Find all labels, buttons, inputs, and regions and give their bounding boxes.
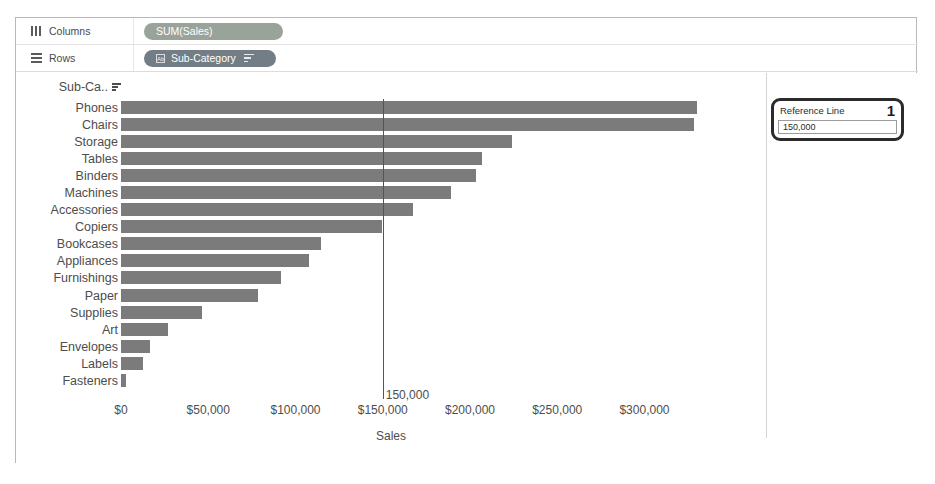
tableau-worksheet-window: Columns SUM(Sales) Rows Ab Sub-Category [15, 17, 917, 463]
bar-mark[interactable] [121, 340, 150, 353]
bar-row[interactable]: Storage [16, 133, 766, 150]
rows-shelf[interactable]: Rows Ab Sub-Category [16, 45, 918, 72]
bar-row[interactable]: Accessories [16, 202, 766, 219]
row-header-title[interactable]: Sub-Ca.. [16, 80, 121, 94]
bar-row-label: Binders [16, 169, 121, 183]
bar-row-label: Storage [16, 135, 121, 149]
bar-mark[interactable] [121, 169, 476, 182]
bar-row[interactable]: Labels [16, 355, 766, 372]
bar-row[interactable]: Phones [16, 99, 766, 116]
dimension-text-icon: Ab [156, 54, 165, 63]
bar-row-label: Tables [16, 152, 121, 166]
x-axis-tick: $100,000 [270, 403, 320, 417]
bar-row-label: Labels [16, 357, 121, 371]
rows-icon [31, 53, 42, 63]
sort-icon[interactable] [112, 83, 121, 91]
screenshot-root: Columns SUM(Sales) Rows Ab Sub-Category [0, 0, 935, 484]
bar-row[interactable]: Art [16, 321, 766, 338]
bar-mark[interactable] [121, 254, 309, 267]
rows-shelf-label: Rows [16, 45, 134, 71]
bar-row-label: Phones [16, 101, 121, 115]
x-axis[interactable]: Sales $0$50,000$100,000$150,000$200,000$… [16, 403, 766, 449]
bar-mark[interactable] [121, 289, 258, 302]
x-axis-tick: $300,000 [619, 403, 669, 417]
x-axis-tick: $0 [114, 403, 127, 417]
bar-row-label: Supplies [16, 306, 121, 320]
bar-mark[interactable] [121, 374, 126, 387]
reference-line-card-header: Reference Line 1 [774, 101, 901, 120]
x-axis-tick: $50,000 [187, 403, 230, 417]
bar-row-label: Envelopes [16, 340, 121, 354]
bar-row-label: Fasteners [16, 374, 121, 388]
x-axis-tick: $250,000 [532, 403, 582, 417]
bar-cell [121, 287, 766, 304]
pill-sum-sales[interactable]: SUM(Sales) [144, 23, 283, 40]
bar-row[interactable]: Paper [16, 287, 766, 304]
rows-shelf-dropzone[interactable]: Ab Sub-Category [134, 45, 918, 71]
reference-line-card[interactable]: Reference Line 1 150,000 [771, 98, 904, 141]
bar-cell [121, 304, 766, 321]
pill-sub-category[interactable]: Ab Sub-Category [144, 50, 276, 67]
bar-cell [121, 338, 766, 355]
bar-cell [121, 355, 766, 372]
columns-shelf-label: Columns [16, 18, 134, 44]
bar-mark[interactable] [121, 220, 382, 233]
sort-descending-icon[interactable] [244, 54, 254, 63]
bar-cell [121, 373, 766, 390]
bar-row[interactable]: Binders [16, 167, 766, 184]
bar-mark[interactable] [121, 237, 321, 250]
pane-divider [766, 73, 767, 438]
bar-row[interactable]: Tables [16, 150, 766, 167]
bar-row-label: Appliances [16, 254, 121, 268]
bar-row-label: Furnishings [16, 271, 121, 285]
bar-cell [121, 167, 766, 184]
columns-icon [31, 26, 42, 36]
bar-mark[interactable] [121, 271, 281, 284]
bar-cell [121, 99, 766, 116]
bar-row-label: Chairs [16, 118, 121, 132]
bar-mark[interactable] [121, 101, 697, 114]
x-axis-tick: $200,000 [445, 403, 495, 417]
bar-cell [121, 116, 766, 133]
bar-mark[interactable] [121, 306, 202, 319]
bar-row-label: Accessories [16, 203, 121, 217]
bar-mark[interactable] [121, 203, 413, 216]
rows-label-text: Rows [49, 52, 75, 64]
bar-cell [121, 236, 766, 253]
bar-cell [121, 270, 766, 287]
bar-cell [121, 133, 766, 150]
annotation-badge: 1 [887, 103, 895, 118]
bar-row[interactable]: Machines [16, 184, 766, 201]
bar-row[interactable]: Envelopes [16, 338, 766, 355]
bar-row[interactable]: Furnishings [16, 270, 766, 287]
reference-line[interactable] [383, 99, 384, 399]
reference-line-card-title: Reference Line [780, 105, 844, 116]
x-axis-tick: $150,000 [358, 403, 408, 417]
reference-line-value-input[interactable]: 150,000 [778, 120, 897, 134]
x-axis-title: Sales [16, 429, 766, 443]
bar-row[interactable]: Copiers [16, 219, 766, 236]
bar-cell [121, 321, 766, 338]
bar-mark[interactable] [121, 323, 168, 336]
bar-cell [121, 219, 766, 236]
bar-mark[interactable] [121, 152, 482, 165]
bar-mark[interactable] [121, 186, 451, 199]
columns-shelf[interactable]: Columns SUM(Sales) [16, 18, 918, 45]
bar-row[interactable]: Appliances [16, 253, 766, 270]
bar-row[interactable]: Chairs [16, 116, 766, 133]
bar-row-label: Machines [16, 186, 121, 200]
bar-row-label: Art [16, 323, 121, 337]
bar-row[interactable]: Supplies [16, 304, 766, 321]
bar-rows: PhonesChairsStorageTablesBindersMachines… [16, 99, 766, 389]
bar-cell [121, 202, 766, 219]
columns-shelf-dropzone[interactable]: SUM(Sales) [134, 18, 918, 44]
bar-cell [121, 150, 766, 167]
bar-row-label: Copiers [16, 220, 121, 234]
pill-sum-sales-label: SUM(Sales) [156, 25, 213, 37]
bar-mark[interactable] [121, 118, 694, 131]
bar-mark[interactable] [121, 357, 143, 370]
row-header-title-text: Sub-Ca.. [59, 80, 108, 94]
bar-cell [121, 253, 766, 270]
bar-row[interactable]: Bookcases [16, 236, 766, 253]
bar-mark[interactable] [121, 135, 512, 148]
